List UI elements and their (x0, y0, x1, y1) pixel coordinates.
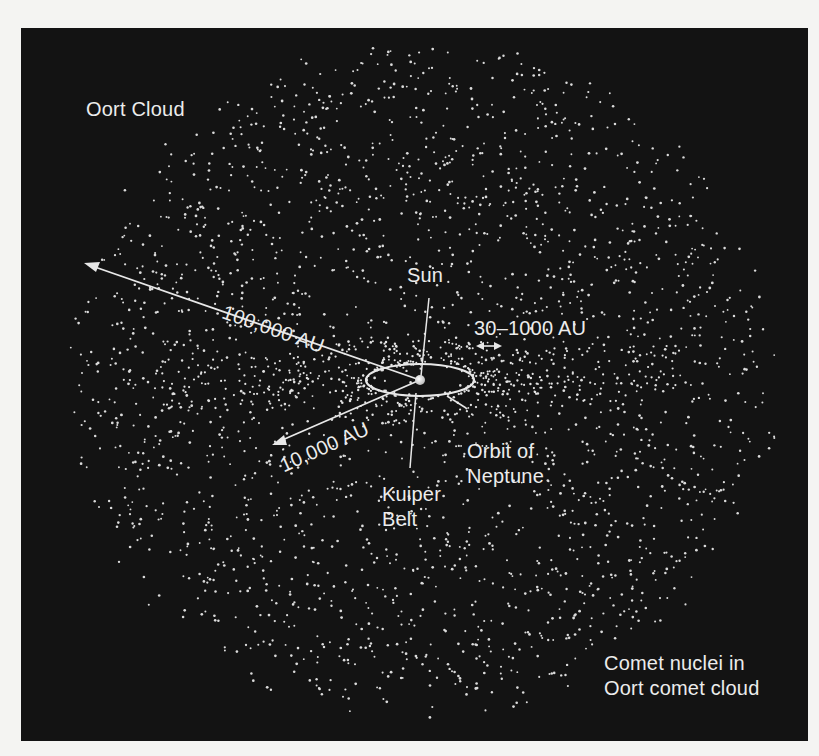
neptune-label: Neptune (467, 465, 544, 488)
neptune-leader-line (447, 396, 466, 408)
oort-cloud-label: Oort Cloud (86, 98, 185, 121)
kuiper-range-label: 30–1000 AU (474, 317, 586, 340)
kuiper-label: Kuiper (382, 483, 441, 506)
sun-label: Sun (407, 264, 443, 287)
belt-label: Belt (382, 508, 417, 531)
comet-nuclei-label: Comet nuclei in (604, 652, 745, 675)
kuiper-range-arrow (476, 342, 502, 350)
sun-icon (415, 375, 425, 385)
orbit-of-label: Orbit of (467, 440, 534, 463)
oort-comet-cloud-label: Oort comet cloud (604, 677, 760, 700)
